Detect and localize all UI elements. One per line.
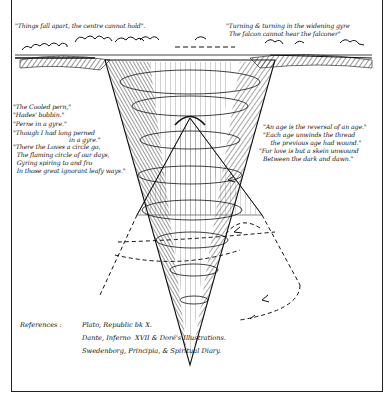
reference-line: Swedenborg, Principia, & Spiritual Diary… bbox=[82, 346, 221, 356]
reference-line: Dante, Inferno XVII & Doré's Illustratio… bbox=[82, 333, 226, 343]
reference-line: Plato, Republic bk X. bbox=[82, 320, 152, 330]
references-label: References : bbox=[20, 320, 62, 330]
